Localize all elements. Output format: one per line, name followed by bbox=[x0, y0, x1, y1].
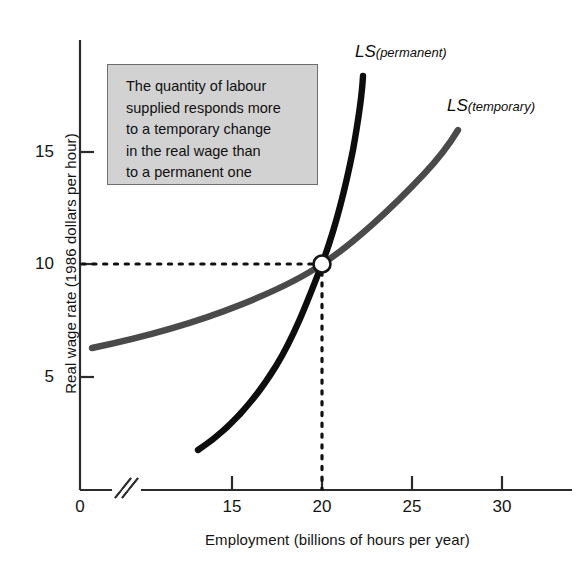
annotation-line-3: to a temporary change bbox=[126, 119, 308, 141]
curve-label-ls-permanent-main: LS bbox=[355, 42, 376, 61]
x-tick-label-15: 15 bbox=[212, 497, 252, 517]
y-tick-label-15: 15 bbox=[14, 142, 54, 162]
annotation-line-4: in the real wage than bbox=[126, 141, 308, 163]
equilibrium-point-marker bbox=[314, 256, 331, 273]
x-tick-label-20: 20 bbox=[302, 497, 342, 517]
x-tick-label-25: 25 bbox=[392, 497, 432, 517]
x-tick-label-30: 30 bbox=[482, 497, 522, 517]
labour-supply-chart: Real wage rate (1986 dollars per hour) E… bbox=[0, 0, 585, 565]
annotation-line-5: to a permanent one bbox=[126, 162, 308, 184]
y-tick-label-10: 10 bbox=[14, 254, 54, 274]
x-tick-label-0: 0 bbox=[60, 497, 100, 517]
annotation-line-1: The quantity of labour bbox=[126, 76, 308, 98]
curve-label-ls-temporary-sub: (temporary) bbox=[468, 99, 535, 114]
y-axis-title: Real wage rate (1986 dollars per hour) bbox=[62, 54, 79, 474]
annotation-callout-box: The quantity of labour supplied responds… bbox=[107, 64, 318, 185]
curve-label-ls-temporary: LS(temporary) bbox=[447, 96, 535, 116]
curve-label-ls-permanent-sub: (permanent) bbox=[376, 45, 447, 60]
y-tick-label-5: 5 bbox=[14, 367, 54, 387]
x-axis-title: Employment (billions of hours per year) bbox=[205, 531, 580, 548]
axis-break-icon bbox=[112, 478, 141, 498]
curve-label-ls-permanent: LS(permanent) bbox=[355, 42, 447, 62]
annotation-callout-text: The quantity of labour supplied responds… bbox=[126, 76, 308, 184]
curve-label-ls-temporary-main: LS bbox=[447, 96, 468, 115]
annotation-line-2: supplied responds more bbox=[126, 98, 308, 120]
